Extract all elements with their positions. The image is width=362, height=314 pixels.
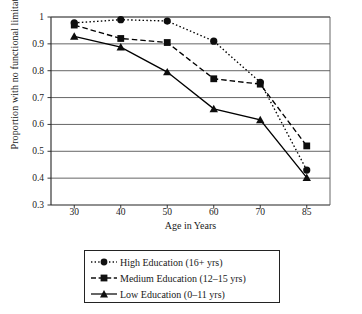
data-series	[71, 16, 311, 174]
data-point-marker	[117, 16, 124, 23]
legend-swatch-dotted-circle	[90, 255, 118, 269]
data-point-marker	[163, 68, 171, 75]
data-point-marker	[210, 38, 217, 45]
legend-item-high-education: High Education (16+ yrs)	[85, 254, 279, 270]
data-series	[71, 22, 310, 150]
axis-tick-marks	[48, 17, 307, 209]
data-point-marker	[70, 32, 78, 39]
data-point-marker	[303, 166, 310, 173]
data-point-marker	[303, 143, 310, 150]
data-point-marker	[164, 39, 171, 46]
legend-label: Medium Education (12–15 yrs)	[120, 273, 246, 284]
data-series-group	[70, 16, 311, 181]
legend-item-medium-education: Medium Education (12–15 yrs)	[85, 270, 279, 286]
chart-legend: High Education (16+ yrs) Medium Educatio…	[84, 250, 280, 303]
data-point-marker	[164, 17, 171, 24]
legend-item-low-education: Low Education (0–11 yrs)	[85, 286, 279, 302]
legend-label: Low Education (0–11 yrs)	[120, 289, 225, 300]
legend-swatch-dashed-square	[90, 271, 118, 285]
data-point-marker	[71, 22, 78, 29]
data-point-marker	[117, 35, 124, 42]
data-point-marker	[210, 75, 217, 82]
chart-figure: Proportion with no functional limitation…	[0, 0, 362, 314]
legend-label: High Education (16+ yrs)	[120, 257, 223, 268]
data-series	[70, 32, 311, 181]
data-point-marker	[257, 81, 264, 88]
plot-frame	[51, 17, 330, 205]
legend-swatch-solid-triangle	[90, 287, 118, 301]
